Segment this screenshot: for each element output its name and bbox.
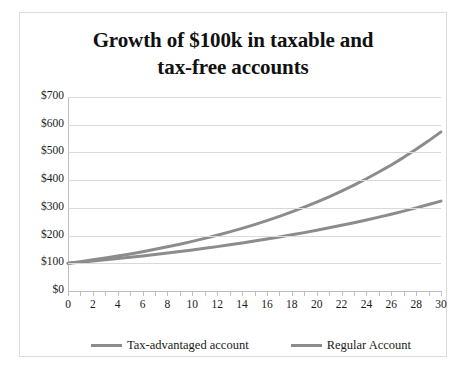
gridline [68, 263, 441, 264]
x-axis-ticks [68, 291, 441, 297]
x-axis-tick [354, 291, 355, 296]
legend-item[interactable]: Regular Account [291, 338, 411, 353]
gridline [68, 236, 441, 237]
x-axis-tick [192, 291, 193, 296]
x-axis-tick [167, 291, 168, 296]
gridline [68, 152, 441, 153]
gridline [68, 180, 441, 181]
legend-label: Regular Account [327, 338, 411, 353]
x-axis-tick [130, 291, 131, 296]
x-axis-tick [68, 291, 69, 296]
x-axis-labels: 024681012141618202224262830 [68, 298, 441, 316]
x-axis-tick [342, 291, 343, 296]
x-axis-tick-label: 28 [410, 298, 422, 310]
x-axis-tick [180, 291, 181, 296]
x-axis-tick [391, 291, 392, 296]
y-axis-tick-label: $0 [53, 283, 65, 295]
chart-container: Growth of $100k in taxable and tax-free … [19, 12, 447, 357]
x-axis-tick-label: 8 [165, 298, 171, 310]
x-axis-tick-label: 4 [115, 298, 121, 310]
x-axis-tick [379, 291, 380, 296]
plot-area [68, 97, 441, 291]
x-axis-tick-label: 22 [336, 298, 348, 310]
x-axis-tick [267, 291, 268, 296]
x-axis-tick [366, 291, 367, 296]
chart-title: Growth of $100k in taxable and tax-free … [20, 27, 446, 81]
x-axis-tick-label: 16 [261, 298, 273, 310]
x-axis-tick-label: 14 [236, 298, 248, 310]
x-axis-tick [230, 291, 231, 296]
chart-title-line-1: Growth of $100k in taxable and [20, 27, 446, 54]
x-axis-tick-label: 18 [286, 298, 298, 310]
y-axis-labels: $0$100$200$300$400$500$600$700 [20, 97, 64, 291]
x-axis-tick [441, 291, 442, 296]
x-axis-tick [93, 291, 94, 296]
x-axis-tick-label: 2 [90, 298, 96, 310]
y-axis-tick-label: $400 [41, 172, 64, 184]
x-axis-tick-label: 24 [361, 298, 373, 310]
x-axis-tick [317, 291, 318, 296]
y-axis-tick-label: $700 [41, 89, 64, 101]
gridline [68, 125, 441, 126]
legend-label: Tax-advantaged account [127, 338, 249, 353]
x-axis-tick [304, 291, 305, 296]
x-axis-tick [279, 291, 280, 296]
x-axis-tick [292, 291, 293, 296]
x-axis-tick [329, 291, 330, 296]
gridline [68, 208, 441, 209]
x-axis-tick-label: 12 [211, 298, 223, 310]
x-axis-tick [242, 291, 243, 296]
x-axis-tick [80, 291, 81, 296]
y-axis-tick-label: $200 [41, 228, 64, 240]
x-axis-tick-label: 10 [187, 298, 199, 310]
x-axis-tick [105, 291, 106, 296]
chart-title-line-2: tax-free accounts [20, 54, 446, 81]
x-axis-tick [416, 291, 417, 296]
series-lines [68, 97, 441, 291]
y-axis-tick-label: $500 [41, 144, 64, 156]
x-axis-tick-label: 30 [435, 298, 447, 310]
x-axis-tick-label: 20 [311, 298, 323, 310]
legend-item[interactable]: Tax-advantaged account [91, 338, 249, 353]
x-axis-tick [118, 291, 119, 296]
y-axis-tick-label: $600 [41, 117, 64, 129]
x-axis-tick [205, 291, 206, 296]
y-axis-tick-label: $100 [41, 255, 64, 267]
x-axis-tick-label: 26 [386, 298, 398, 310]
x-axis-tick [404, 291, 405, 296]
x-axis-tick [255, 291, 256, 296]
x-axis-tick-label: 0 [65, 298, 71, 310]
y-axis-tick-label: $300 [41, 200, 64, 212]
chart-legend: Tax-advantaged accountRegular Account [20, 338, 462, 353]
x-axis-tick [143, 291, 144, 296]
x-axis-tick [429, 291, 430, 296]
legend-line-swatch [91, 344, 122, 347]
x-axis-tick [155, 291, 156, 296]
x-axis-tick-label: 6 [140, 298, 146, 310]
legend-line-swatch [291, 344, 322, 347]
x-axis-tick [217, 291, 218, 296]
gridline [68, 97, 441, 98]
